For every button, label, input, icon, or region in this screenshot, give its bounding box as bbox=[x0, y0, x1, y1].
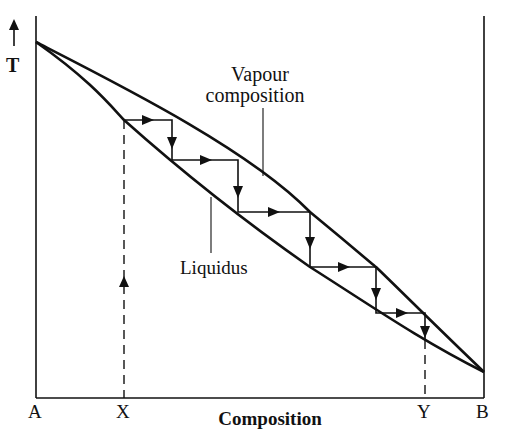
vapour-label-2: composition bbox=[206, 84, 305, 107]
up-arrow-icon bbox=[9, 19, 19, 46]
down-arrow-icons bbox=[167, 137, 430, 338]
heating-arrow-icon bbox=[119, 276, 129, 287]
y-axis-label: T bbox=[6, 54, 20, 76]
x-axis-label: Composition bbox=[218, 408, 322, 429]
tick-label-y: Y bbox=[417, 401, 431, 422]
liquidus-label: Liquidus bbox=[180, 257, 248, 278]
distillation-steps bbox=[124, 120, 425, 340]
right-arrow-icons bbox=[142, 115, 408, 318]
tick-label-x: X bbox=[116, 401, 130, 422]
phase-diagram: T Vapour composition Liquidus A X Y B Co… bbox=[0, 0, 506, 438]
tick-label-b: B bbox=[476, 401, 489, 422]
vapour-label: Vapour bbox=[231, 63, 289, 86]
tick-label-a: A bbox=[28, 401, 42, 422]
